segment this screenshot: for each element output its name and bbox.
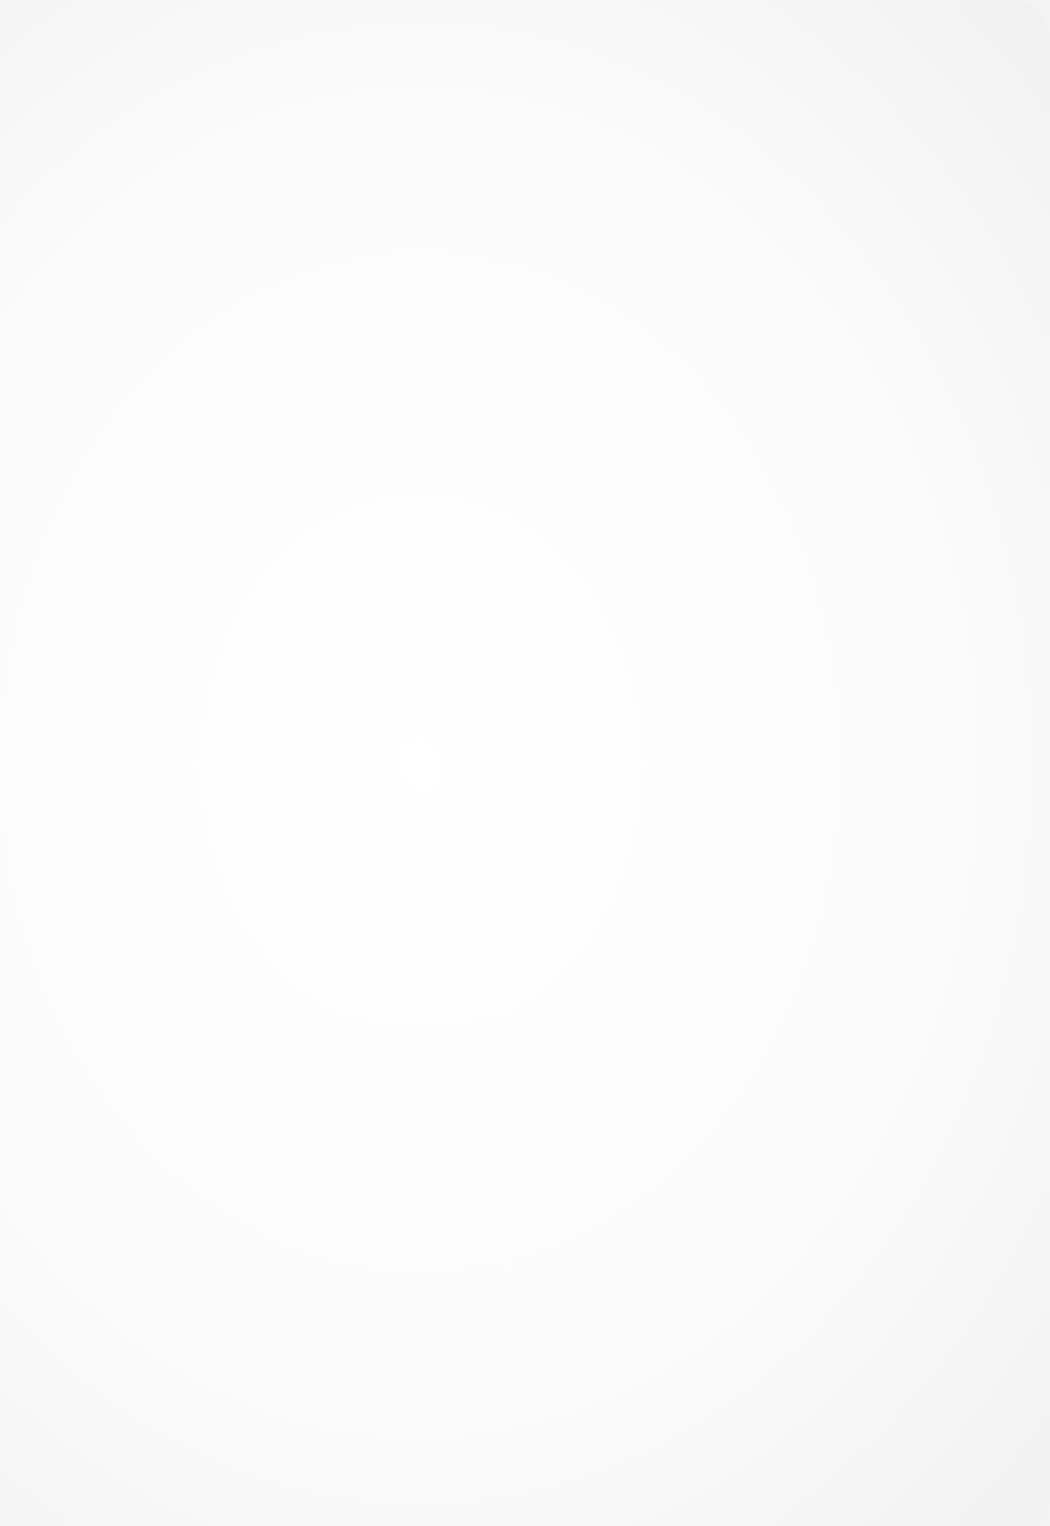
lined-paper-sheet: [0, 0, 1050, 1526]
